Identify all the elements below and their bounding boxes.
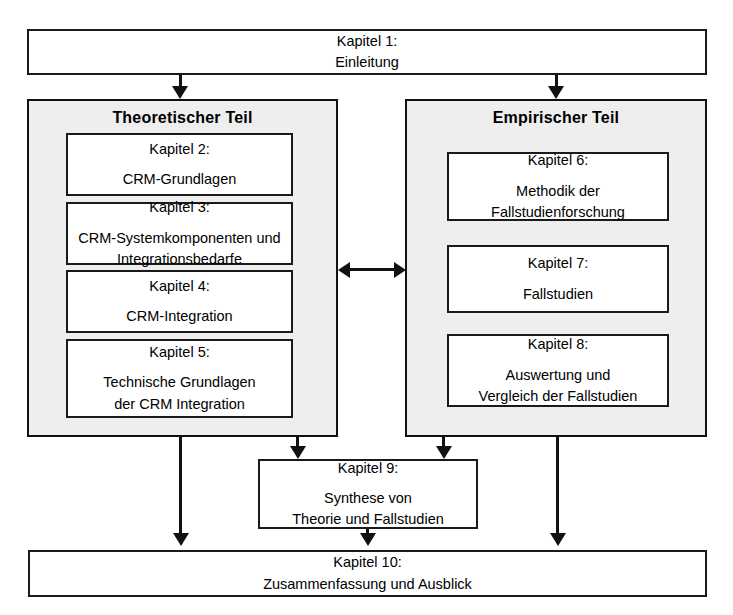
- chapter-box-line: der CRM Integration: [114, 394, 245, 415]
- chapter-box-kapitel-1: Kapitel 1: Einleitung: [27, 29, 707, 75]
- chapter-box-kapitel-9: Kapitel 9: Synthese von Theorie und Fall…: [258, 459, 478, 529]
- chapter-box-kapitel-4: Kapitel 4: CRM-Integration: [66, 270, 293, 333]
- chapter-box-line: Kapitel 5:: [149, 342, 209, 363]
- chapter-box-kapitel-7: Kapitel 7: Fallstudien: [447, 245, 669, 313]
- chapter-box-kapitel-6: Kapitel 6: Methodik der Fallstudienforsc…: [447, 152, 669, 221]
- chapter-box-line: Kapitel 10:: [333, 552, 402, 573]
- chapter-box-line: Kapitel 8:: [528, 334, 588, 355]
- chapter-box-line: Einleitung: [335, 52, 399, 73]
- chapter-box-line: Kapitel 2:: [149, 139, 209, 160]
- chapter-box-kapitel-8: Kapitel 8: Auswertung und Vergleich der …: [447, 334, 669, 407]
- connector-intro-to-left-arrow-icon: [172, 86, 188, 99]
- connector-right-to-summary-line: [556, 437, 559, 535]
- chapter-box-kapitel-3: Kapitel 3: CRM-Systemkomponenten und Int…: [66, 202, 293, 265]
- diagram-canvas: Kapitel 1: Einleitung Theoretischer Teil…: [0, 0, 733, 615]
- connector-between-groups-line: [350, 268, 394, 271]
- chapter-box-line: Kapitel 7:: [528, 253, 588, 274]
- connector-right-to-synthesis-arrow-icon: [436, 446, 452, 459]
- chapter-box-line: Kapitel 9:: [338, 458, 398, 479]
- chapter-box-line: Kapitel 4:: [149, 276, 209, 297]
- connector-between-groups-arrow-right-icon: [394, 262, 406, 278]
- chapter-box-line: Vergleich der Fallstudien: [479, 386, 638, 407]
- connector-synthesis-to-summary-arrow-icon: [360, 533, 376, 546]
- chapter-box-line: Technische Grundlagen: [103, 372, 255, 393]
- chapter-box-line: Synthese von: [324, 488, 412, 509]
- connector-left-to-summary-line: [179, 437, 182, 535]
- group-title-theoretischer-teil: Theoretischer Teil: [29, 109, 336, 127]
- connector-left-to-synthesis-arrow-icon: [290, 446, 306, 459]
- chapter-box-line: Auswertung und: [506, 365, 611, 386]
- connector-intro-to-right-arrow-icon: [548, 86, 564, 99]
- chapter-box-line: Theorie und Fallstudien: [292, 509, 444, 530]
- chapter-box-kapitel-10: Kapitel 10: Zusammenfassung und Ausblick: [28, 550, 707, 597]
- chapter-box-line: CRM-Integration: [126, 306, 232, 327]
- chapter-box-line: Fallstudienforschung: [491, 202, 625, 223]
- connector-right-to-summary-arrow-icon: [550, 533, 566, 546]
- chapter-box-line: CRM-Systemkomponenten und: [78, 228, 280, 249]
- chapter-box-line: Kapitel 1:: [337, 31, 397, 52]
- connector-left-to-summary-arrow-icon: [173, 533, 189, 546]
- chapter-box-kapitel-2: Kapitel 2: CRM-Grundlagen: [66, 133, 293, 196]
- connector-between-groups-arrow-left-icon: [338, 262, 350, 278]
- chapter-box-line: Methodik der: [516, 181, 600, 202]
- chapter-box-kapitel-5: Kapitel 5: Technische Grundlagen der CRM…: [66, 339, 293, 418]
- chapter-box-line: Kapitel 6:: [528, 150, 588, 171]
- chapter-box-line: Fallstudien: [523, 284, 593, 305]
- chapter-box-line: Zusammenfassung und Ausblick: [263, 574, 472, 595]
- group-title-empirischer-teil: Empirischer Teil: [407, 109, 705, 127]
- chapter-box-line: Integrationsbedarfe: [117, 249, 242, 270]
- chapter-box-line: Kapitel 3:: [149, 197, 209, 218]
- chapter-box-line: CRM-Grundlagen: [123, 169, 237, 190]
